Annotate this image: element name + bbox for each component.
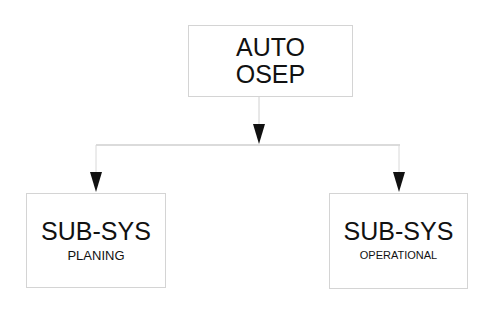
arrow-down-icon [393,172,405,192]
arrow-down-icon [253,124,265,144]
root-label-line1: AUTO [236,34,305,61]
child-node-operational: SUB-SYS OPERATIONAL [329,193,468,289]
child-subtitle: OPERATIONAL [360,247,437,264]
child-title: SUB-SYS [344,218,454,245]
child-title: SUB-SYS [41,218,151,245]
child-node-planing: SUB-SYS PLANING [26,193,166,288]
child-subtitle: PLANING [67,247,124,264]
root-node: AUTO OSEP [188,25,353,97]
arrow-down-icon [90,172,102,192]
root-label-line2: OSEP [236,61,305,88]
